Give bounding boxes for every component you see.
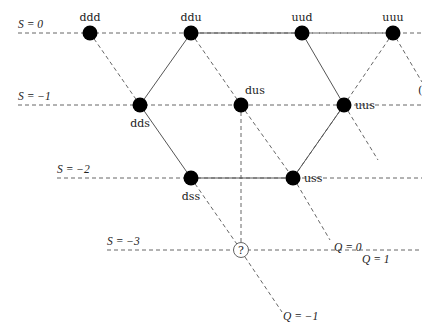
strangeness-label: S = −3 [107,235,140,247]
node-ddu [184,26,199,41]
node-label: uss [304,172,323,185]
strangeness-label: S = −2 [57,163,90,175]
node-label: ddu [180,11,201,24]
node-label: uus [355,99,375,112]
node-uuu [386,26,401,41]
node-label: ddd [79,11,100,24]
strangeness-label: S = −1 [18,90,51,102]
charge-line [245,257,282,312]
node-label: dds [130,117,150,130]
edge-ddd-dds [90,33,140,105]
charge-label: Q = −1 [283,310,318,322]
edge-ddu-dds [140,33,191,105]
charge-label: Q = 1 [362,253,390,265]
node-label: dus [245,84,265,97]
node-label: uuu [382,11,403,24]
edge-dss-unknown [191,178,241,250]
edge-dus-uss [241,105,293,178]
labels: S = 0S = −1S = −2S = −3ddddduuuduuuddsdu… [18,11,422,322]
node-label: ? [238,244,244,257]
cutoff-label: ( [418,84,422,97]
decuplet-diagram: S = 0S = −1S = −2S = −3ddddduuuduuuddsdu… [0,0,422,335]
charge-line [396,38,422,82]
node-label: uud [291,11,312,24]
node-ddd [83,26,98,41]
edge-ddu-dus [191,33,241,105]
node-uud [295,26,310,41]
node-label: dss [182,190,201,203]
strangeness-label: S = 0 [18,18,43,30]
node-uss [286,171,301,186]
node-dss [184,171,199,186]
node-uus [337,98,352,113]
edge-uuu-uus [344,33,393,105]
edge-uud-uus [302,33,344,105]
charge-line [348,111,378,160]
node-dds [133,98,148,113]
strangeness-lines [18,33,422,250]
node-dus [234,98,249,113]
charge-label: Q = 0 [334,241,362,253]
edges [90,33,422,312]
edge-dds-dss [140,105,191,178]
nodes [83,26,401,258]
charge-line [297,184,330,240]
